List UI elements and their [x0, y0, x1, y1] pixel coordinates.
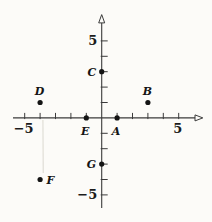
point-label-B: B: [142, 85, 152, 98]
x-axis-number-5: 5: [173, 121, 182, 136]
point-label-F: F: [46, 174, 56, 187]
point-F: [38, 177, 43, 182]
coordinate-plane-figure: −555−5ABCDEFG: [0, 0, 212, 222]
point-C: [99, 69, 104, 74]
point-label-E: E: [80, 125, 90, 138]
point-B: [145, 100, 150, 105]
y-axis-number-5: 5: [88, 33, 97, 48]
coordinate-plane-svg: −555−5ABCDEFG: [0, 0, 212, 222]
point-G: [99, 162, 104, 167]
point-label-C: C: [87, 66, 96, 79]
point-label-A: A: [111, 125, 121, 138]
point-E: [84, 115, 89, 120]
x-axis-arrowhead-icon: [195, 115, 203, 121]
point-D: [38, 100, 43, 105]
x-axis-number--5: −5: [14, 121, 34, 136]
y-axis-number--5: −5: [77, 187, 97, 202]
y-axis-arrowhead-icon: [99, 15, 105, 23]
point-label-D: D: [34, 85, 45, 98]
point-label-G: G: [87, 158, 96, 171]
point-A: [115, 115, 120, 120]
